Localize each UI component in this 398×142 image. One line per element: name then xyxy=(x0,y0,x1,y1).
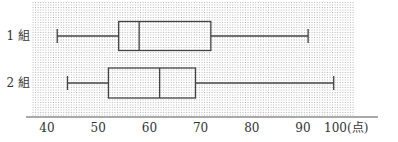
group-label: 1 組 xyxy=(7,29,30,43)
box-plots xyxy=(57,22,333,99)
grid-lines xyxy=(33,2,353,116)
x-tick-label: 60 xyxy=(142,121,157,135)
boxplot-chart: 405060708090100(点) 1 組2 組 xyxy=(0,0,398,142)
x-tick-label: 90 xyxy=(295,121,310,135)
x-tick-label: 70 xyxy=(193,121,208,135)
x-tick-label: 50 xyxy=(91,121,106,135)
x-tick-labels: 405060708090100(点) xyxy=(39,121,368,135)
group-label: 2 組 xyxy=(7,76,30,90)
group-labels: 1 組2 組 xyxy=(7,29,30,90)
boxplot-group-1 xyxy=(57,22,308,51)
x-tick-label: 80 xyxy=(244,121,259,135)
x-tick-label: 40 xyxy=(39,121,54,135)
x-tick-label: 100(点) xyxy=(324,121,368,135)
iqr-box xyxy=(108,68,195,98)
iqr-box xyxy=(119,22,211,51)
